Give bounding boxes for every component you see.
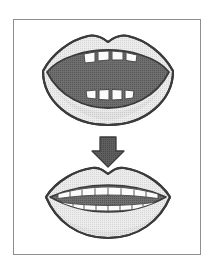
figure-frame-border [13, 19, 201, 255]
figure-root: Open mouth position Closed teeth positio… [0, 0, 216, 273]
